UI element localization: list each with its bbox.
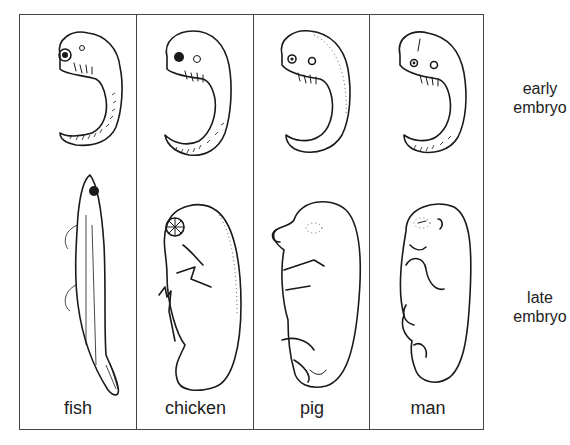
label-chicken: chicken <box>137 398 254 419</box>
column-man: man <box>369 15 486 429</box>
row-label-late-line2: embryo <box>500 307 570 326</box>
label-pig: pig <box>254 398 370 419</box>
label-man: man <box>370 398 486 419</box>
column-pig: pig <box>253 15 370 429</box>
chicken-late-embryo-drawing <box>137 195 254 395</box>
label-fish: fish <box>20 398 136 419</box>
row-label-late-embryo: late embryo <box>500 288 570 326</box>
row-label-late-line1: late <box>500 288 570 307</box>
column-chicken: chicken <box>136 15 254 429</box>
column-fish: fish <box>20 15 136 429</box>
pig-late-embryo-drawing <box>254 190 370 400</box>
row-label-early-line1: early <box>500 79 570 98</box>
chicken-early-embryo-drawing <box>137 15 254 215</box>
fish-late-embryo-drawing <box>20 165 136 405</box>
man-late-embryo-drawing <box>370 195 486 395</box>
embryo-comparison-table: fish chicken <box>19 14 484 430</box>
row-label-early-embryo: early embryo <box>500 79 570 117</box>
pig-early-embryo-drawing <box>254 15 370 215</box>
row-label-early-line2: embryo <box>500 98 570 117</box>
man-early-embryo-drawing <box>370 15 486 215</box>
